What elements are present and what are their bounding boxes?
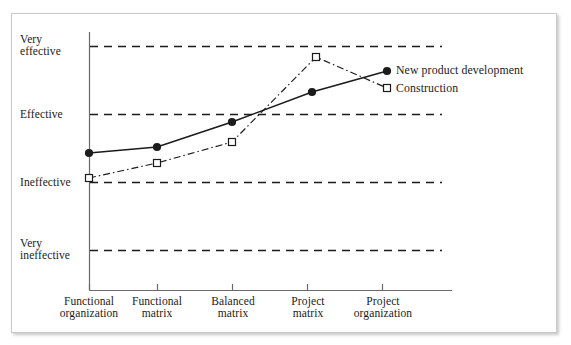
- series-new-product-development-point: [153, 143, 161, 151]
- y-tick-label-very-ineffective: Very ineffective: [20, 237, 90, 262]
- series-new-product-development-point: [383, 67, 391, 75]
- legend-label-construction: Construction: [396, 82, 458, 94]
- series-construction-point: [313, 54, 320, 61]
- series-construction-line: [89, 57, 387, 178]
- y-tick-label-ineffective: Ineffective: [20, 176, 90, 188]
- series-construction-point: [154, 160, 161, 167]
- series-new-product-development-line: [89, 71, 387, 153]
- series-new-product-development-point: [228, 118, 236, 126]
- series-construction-point: [229, 139, 236, 146]
- series-new-product-development-point: [308, 88, 316, 96]
- series-construction-point: [384, 85, 391, 92]
- x-tick-label-project-organization: Project organization: [328, 295, 438, 320]
- y-tick-label-very-effective: Very effective: [20, 33, 90, 58]
- chart-figure: Very effective Effective Ineffective Ver…: [0, 0, 571, 345]
- series-new-product-development: [85, 67, 391, 157]
- series-construction: [86, 54, 391, 182]
- legend-label-new-product-development: New product development: [396, 64, 523, 76]
- y-tick-label-effective: Effective: [20, 108, 90, 120]
- series-new-product-development-point: [85, 149, 93, 157]
